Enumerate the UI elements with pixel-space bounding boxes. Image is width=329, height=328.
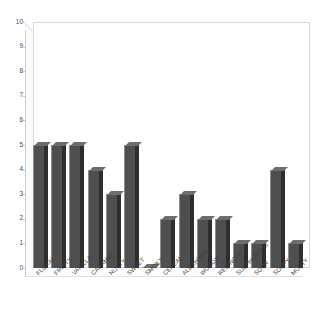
bar-column [51,145,69,268]
bar [33,145,44,268]
y-axis-tick-label: 9 [1,43,23,50]
bar-column [69,145,87,268]
bar-top-face [89,167,106,171]
bar-column [124,145,142,268]
bar-top-face [271,167,288,171]
y-axis-tick-label: 0 [1,265,23,272]
y-axis-tick-label: 8 [1,68,23,75]
bar-side-face [135,145,139,268]
bar-top-face [198,216,215,220]
bar-side-face [80,145,84,268]
bar-top-face [52,142,69,146]
bar-top-face [34,142,51,146]
y-axis-tick-label: 3 [1,191,23,198]
bar-top-face [107,191,124,195]
y-axis-tick-label: 10 [1,19,23,26]
bar-top-face [289,240,306,244]
bar-top-face [161,216,178,220]
bar-column [270,170,288,268]
bar-top-face [125,142,142,146]
bar-top-face [216,216,233,220]
y-axis-tick-label: 1 [1,240,23,247]
bar-column [88,170,106,268]
bar-side-face [62,145,66,268]
bar-top-face [180,191,197,195]
plot-area [25,22,310,277]
y-axis-tick-label: 5 [1,142,23,149]
bar [88,170,99,268]
y-axis-tick-label: 6 [1,117,23,124]
bar-side-face [99,170,103,268]
bar [124,145,135,268]
bar-side-face [117,194,121,268]
y-axis-tick-label: 4 [1,166,23,173]
bar [270,170,281,268]
bar-side-face [190,194,194,268]
bar-column [33,145,51,268]
bar-chart: 012345678910 FLORALFRUITYVANILLACARAMELN… [0,0,329,328]
bar-top-face [234,240,251,244]
y-axis-tick-label: 7 [1,92,23,99]
bar-side-face [281,170,285,268]
bar [69,145,80,268]
bar-top-face [70,142,87,146]
y-axis-tick-label: 2 [1,215,23,222]
bar [51,145,62,268]
y-axis-ticks: 012345678910 [0,0,23,328]
bar-side-face [44,145,48,268]
